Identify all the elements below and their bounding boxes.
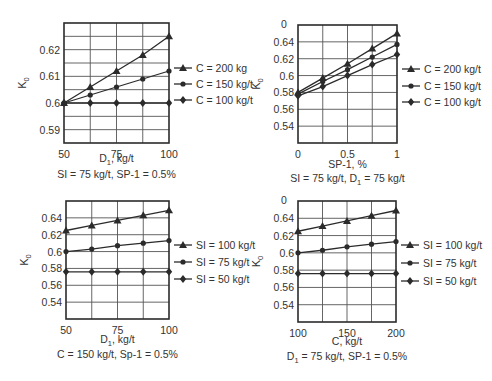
legend-label: C = 100 kg/t xyxy=(196,94,253,106)
y-tick-label: 0.59 xyxy=(40,124,61,136)
legend-item: C = 100 kg/t xyxy=(402,96,481,108)
legend-item: SI = 100 kg/t xyxy=(174,239,255,251)
y-tick-label: 0.58 xyxy=(42,262,63,274)
y-axis-label: K0 xyxy=(250,256,265,267)
data-point xyxy=(369,242,374,247)
legend-label: C = 100 kg/t xyxy=(424,96,481,108)
data-point xyxy=(368,270,374,278)
y-tick-label-partial: 0 xyxy=(281,18,287,30)
data-point xyxy=(166,68,171,73)
data-point xyxy=(393,270,399,278)
legend-diamond-icon xyxy=(180,96,186,104)
x-tick-label: 100 xyxy=(160,148,178,160)
legend-item: C = 200 kg/t xyxy=(402,63,481,75)
data-point xyxy=(319,270,325,278)
data-point xyxy=(393,239,398,244)
y-tick-label: 0.64 xyxy=(274,36,295,48)
data-point xyxy=(344,60,352,67)
data-point xyxy=(141,241,146,246)
y-axis-label: K0 xyxy=(18,254,33,265)
y-tick-label: 0.56 xyxy=(42,279,63,291)
data-point xyxy=(344,270,350,278)
legend-circle-icon xyxy=(407,260,412,265)
chart-caption: C = 150 kg/t, Sp-1 = 0.5% xyxy=(57,348,178,360)
data-point xyxy=(344,72,350,80)
data-point xyxy=(320,248,325,253)
x-axis-label: SP-1, % xyxy=(328,158,367,170)
legend-item: C = 150 kg/t xyxy=(174,78,253,90)
legend-item: SI = 75 kg/t xyxy=(174,256,249,268)
x-tick-label: 50 xyxy=(58,148,70,160)
chart-panel-p3: 0.540.560.580.60.620.645075100K0D1, kg/t… xyxy=(18,201,255,360)
data-point xyxy=(295,270,301,278)
data-point xyxy=(165,32,173,39)
data-point xyxy=(320,83,326,91)
y-tick-label: 0.56 xyxy=(274,281,295,293)
chart-caption: D1 = 75 kg/t, SP-1 = 0.5% xyxy=(287,350,407,365)
series-diamond xyxy=(295,270,399,278)
chart-caption: SI = 75 kg/t, SP-1 = 0.5% xyxy=(57,168,175,180)
legend-diamond-icon xyxy=(407,277,413,285)
data-point xyxy=(88,92,93,97)
data-point xyxy=(140,99,146,107)
data-point xyxy=(63,249,68,254)
y-tick-label: 0.62 xyxy=(42,229,63,241)
data-point xyxy=(115,243,120,248)
data-point xyxy=(140,76,145,81)
data-point xyxy=(369,61,375,69)
legend-label: SI = 100 kg/t xyxy=(196,239,255,251)
x-axis-label: D1, kg/t xyxy=(99,152,134,167)
x-axis-label: D1, kg/t xyxy=(100,333,135,348)
legend-label: SI = 100 kg/t xyxy=(423,239,482,251)
data-point xyxy=(370,54,375,59)
data-point xyxy=(86,83,94,90)
data-point xyxy=(295,250,300,255)
data-point xyxy=(165,206,173,213)
data-point xyxy=(114,268,120,276)
legend-label: C = 150 kg/t xyxy=(424,80,481,92)
y-tick-label: 0.62 xyxy=(274,53,295,65)
data-point xyxy=(114,84,119,89)
series-diamond xyxy=(63,268,172,276)
x-tick-label: 50 xyxy=(60,324,72,336)
series-diamond xyxy=(61,99,172,107)
legend-item: SI = 75 kg/t xyxy=(401,257,476,269)
data-point xyxy=(166,268,172,276)
data-point xyxy=(368,45,376,52)
y-axis-label: K0 xyxy=(16,77,31,88)
legend-item: C = 100 kg/t xyxy=(174,94,253,106)
x-tick-label: 100 xyxy=(160,324,178,336)
y-tick-label: 0.64 xyxy=(42,212,63,224)
data-point xyxy=(345,67,350,72)
data-point xyxy=(140,268,146,276)
y-tick-label: 0.6 xyxy=(45,97,60,109)
data-point xyxy=(166,99,172,107)
data-point xyxy=(89,246,94,251)
data-point xyxy=(394,42,399,47)
chart-panel-p1: 0.590.60.610.625075100K0D1, kg/tSI = 75 … xyxy=(16,23,253,180)
y-tick-label: 0.54 xyxy=(274,299,295,311)
x-axis-label: C, kg/t xyxy=(332,335,362,347)
x-tick-label: 0 xyxy=(295,148,301,160)
data-point xyxy=(139,51,147,58)
data-point xyxy=(344,244,349,249)
legend-label: C = 200 kg xyxy=(196,62,247,74)
y-tick-label: 0.6 xyxy=(279,247,294,259)
y-tick-label: 0.58 xyxy=(274,264,295,276)
y-tick-label-partial: 0 xyxy=(281,194,287,206)
data-point xyxy=(87,99,93,107)
data-point xyxy=(393,29,401,36)
x-tick-label: 1 xyxy=(394,148,400,160)
y-tick-label: 0.6 xyxy=(47,246,62,258)
legend-label: SI = 50 kg/t xyxy=(196,273,249,285)
y-tick-label: 0.64 xyxy=(274,212,295,224)
y-tick-label: 0.6 xyxy=(279,70,294,82)
data-point xyxy=(166,238,171,243)
data-point xyxy=(394,51,400,59)
chart-panel-p2: 0.540.560.580.60.620.64000.51K0SP-1, %SI… xyxy=(250,18,481,187)
data-point xyxy=(113,67,121,74)
y-tick-label: 0.58 xyxy=(274,86,295,98)
y-tick-label: 0.54 xyxy=(42,296,63,308)
y-tick-label: 0.62 xyxy=(274,230,295,242)
data-point xyxy=(392,207,400,214)
